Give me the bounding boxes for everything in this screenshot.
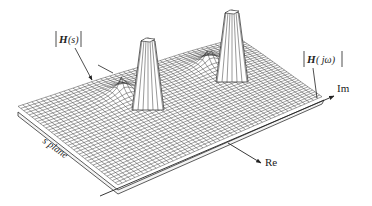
svg-text:(s): (s) — [68, 34, 79, 46]
svg-text:H: H — [306, 53, 316, 65]
svg-text:( jω): ( jω) — [316, 54, 336, 66]
surface-magnitude-label: H (s) — [56, 31, 113, 80]
imag-axis-label: Im — [337, 82, 350, 94]
real-axis-label: Re — [265, 156, 277, 168]
svg-text:H: H — [58, 33, 68, 45]
imag-axis-arrow — [100, 96, 334, 196]
s-plane-surface-diagram: Im Re H (s) H ( jω) s plane — [0, 0, 372, 206]
pole-peaks — [132, 10, 248, 110]
real-axis-arrow — [228, 143, 261, 163]
right-pole-peak — [216, 10, 248, 82]
left-pole-peak — [132, 38, 164, 110]
